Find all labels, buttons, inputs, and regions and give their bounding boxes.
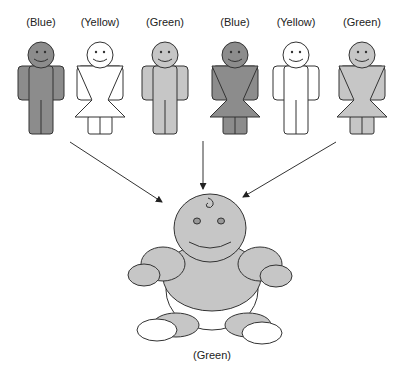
right-eye [44,51,46,53]
parent-figure-blue-male [18,42,64,134]
head [283,42,309,68]
parent-figures [18,42,387,134]
baby-head [174,194,246,262]
arrow-0 [70,142,162,202]
left-eye [160,51,162,53]
baby-right-eye [218,218,225,224]
left-eye [291,51,293,53]
baby-left-eye [194,218,201,224]
right-eye [365,51,367,53]
right-eye [299,51,301,53]
head [349,42,375,68]
right-eye [103,51,105,53]
parent-figure-yellow-male [273,42,319,134]
parent-figure-yellow-female [75,42,125,134]
head [28,42,54,68]
left-eye [36,51,38,53]
left-foot [137,319,177,341]
left-eye [230,51,232,53]
baby-figure [128,194,292,344]
right-foot [242,322,282,344]
head [152,42,178,68]
parent-figure-blue-female [210,42,260,134]
head [87,42,113,68]
head [222,42,248,68]
parent-figure-green-female [337,42,387,134]
parent-figure-green-male [142,42,188,134]
left-hand [128,264,160,286]
right-eye [238,51,240,53]
right-hand [260,265,292,287]
arrow-2 [243,142,336,197]
inheritance-arrows [70,141,336,202]
right-eye [168,51,170,53]
genetics-diagram [0,0,402,376]
left-eye [95,51,97,53]
left-eye [357,51,359,53]
